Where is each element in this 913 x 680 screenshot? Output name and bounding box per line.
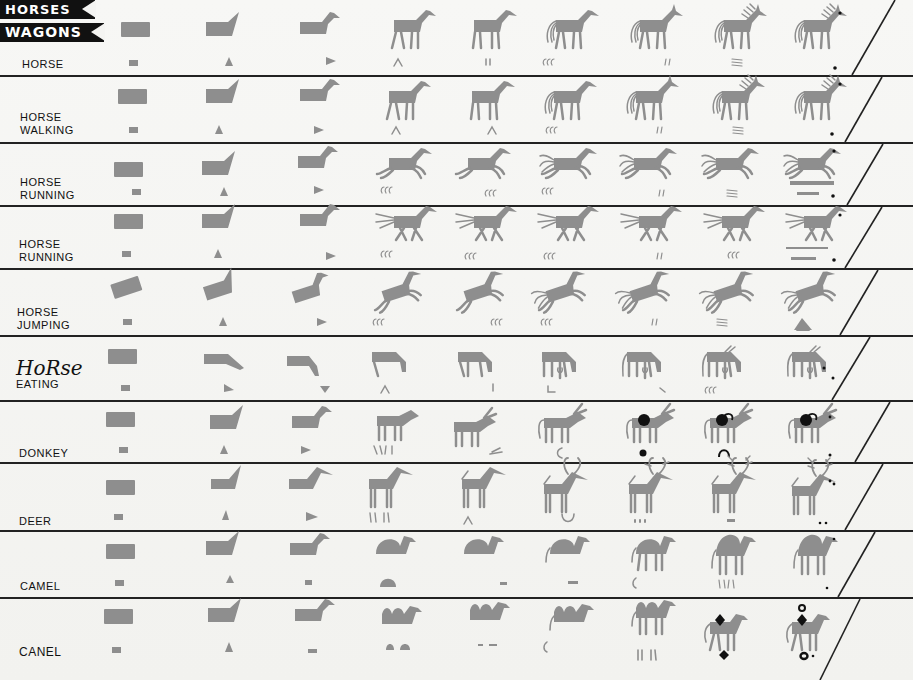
row-canel-sprites (104, 598, 830, 660)
sprite-evolution-sheet: HORSES WAGONS HORSE HORSE WALKING HORSE (0, 0, 913, 680)
row-camel-sprites (106, 531, 838, 589)
row-horse-walking-sprites (118, 75, 847, 136)
row-donkey-sprites (106, 404, 836, 458)
row-deer-sprites (106, 456, 836, 524)
row-horse-sprites (121, 4, 847, 70)
row-horse-jumping-sprites (110, 268, 842, 331)
row-horse-running-sprites-2 (114, 204, 847, 262)
row-horse-running-sprites-1 (114, 146, 841, 198)
row-horse-eating-sprites (108, 346, 835, 393)
sprite-grid (0, 0, 913, 680)
